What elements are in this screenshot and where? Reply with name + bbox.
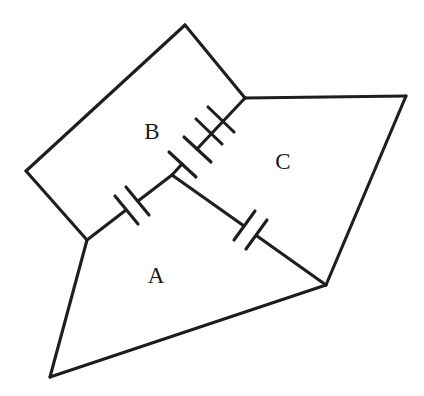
capacitor-a-c-lead-right	[257, 236, 326, 285]
region-c-edge-top	[245, 96, 406, 98]
capacitor-a-c-plate-right	[246, 220, 267, 249]
region-label-b: B	[144, 119, 159, 144]
capacitor-a-b-lead-lower	[87, 210, 126, 240]
capacitor-a-b	[87, 175, 172, 240]
region-b-edge-top-right	[185, 25, 245, 98]
capacitor-b-c-plate-outer-upper	[208, 107, 234, 132]
region-a-shape	[50, 240, 326, 377]
capacitor-a-c-lead-left	[172, 175, 244, 226]
region-b-edge-bottom-left	[26, 171, 87, 240]
region-label-a: A	[148, 263, 165, 288]
capacitor-b-c-lead-lower	[172, 164, 182, 175]
capacitor-a-b-plate-lower	[115, 196, 138, 224]
capacitor-b-c	[169, 98, 245, 177]
region-a-edge-bottom	[50, 285, 326, 377]
capacitor-network-diagram: B C A	[0, 0, 424, 396]
region-b-edge-top-left	[26, 25, 185, 171]
region-c-shape	[245, 96, 406, 285]
figure-canvas: B C A	[0, 0, 424, 396]
capacitor-a-c-plate-left	[234, 211, 255, 240]
region-a-edge-left	[50, 240, 87, 377]
region-c-edge-right	[326, 96, 406, 285]
capacitor-a-b-lead-upper	[138, 175, 172, 201]
capacitor-b-c-plate-outer-lower	[196, 119, 222, 144]
region-label-c: C	[275, 149, 290, 174]
capacitor-a-c	[172, 175, 326, 285]
